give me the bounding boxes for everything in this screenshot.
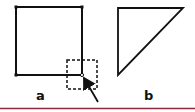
pointer-arrow-icon xyxy=(84,78,98,102)
vertex-dot xyxy=(15,6,18,9)
vertex-dot xyxy=(81,6,84,9)
diagram-canvas: a b xyxy=(0,0,195,112)
vertex-dot xyxy=(15,74,18,77)
square-shape xyxy=(16,7,82,75)
marked-corner-circle xyxy=(80,73,83,76)
panel-b: b xyxy=(118,8,183,103)
panel-a-label: a xyxy=(36,88,45,103)
panel-a: a xyxy=(15,6,99,104)
triangle-shape xyxy=(118,8,183,75)
panel-b-label: b xyxy=(144,88,153,103)
